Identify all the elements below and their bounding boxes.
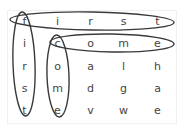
grid-cell: a bbox=[141, 77, 174, 99]
grid-cell: e bbox=[141, 32, 174, 54]
grid-cell: t bbox=[8, 99, 41, 121]
grid-cell: s bbox=[107, 10, 140, 32]
grid-cell: m bbox=[41, 77, 74, 99]
grid-cell: t bbox=[141, 10, 174, 32]
grid-cell: i bbox=[41, 10, 74, 32]
grid-cell: f bbox=[8, 10, 41, 32]
grid-cell: d bbox=[74, 77, 107, 99]
grid-cell: w bbox=[107, 99, 140, 121]
grid-cell: o bbox=[41, 55, 74, 77]
grid-cell: i bbox=[8, 32, 41, 54]
grid-cell: l bbox=[107, 55, 140, 77]
grid-cell: v bbox=[74, 99, 107, 121]
grid-cell: m bbox=[107, 32, 140, 54]
grid-cell: h bbox=[141, 55, 174, 77]
grid-cell: e bbox=[141, 99, 174, 121]
grid-cell: s bbox=[8, 77, 41, 99]
grid-cell: r bbox=[74, 10, 107, 32]
grid-cell: o bbox=[74, 32, 107, 54]
grid-cell: g bbox=[107, 77, 140, 99]
grid-cell: a bbox=[74, 55, 107, 77]
grid-cell: c bbox=[41, 32, 74, 54]
grid-cell: e bbox=[41, 99, 74, 121]
grid-cell: r bbox=[8, 55, 41, 77]
